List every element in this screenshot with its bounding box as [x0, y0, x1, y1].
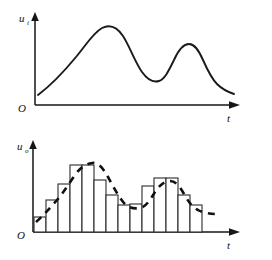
- output-y-axis-sublabel: o: [25, 147, 29, 155]
- input-x-axis-label: t: [227, 112, 231, 124]
- figure-container: u i t O: [0, 0, 272, 260]
- stair-bar: [166, 178, 178, 232]
- stair-bar: [118, 205, 130, 232]
- output-origin-label: O: [17, 229, 25, 241]
- stair-bar: [82, 165, 94, 232]
- input-y-axis-arrow-icon: [31, 12, 39, 21]
- stair-bar: [70, 165, 82, 232]
- stair-bar: [46, 200, 58, 232]
- input-waveform-curve: [38, 26, 234, 95]
- output-x-axis-label: t: [227, 239, 231, 251]
- input-signal-plot: u i t O: [0, 0, 272, 130]
- output-signal-plot: u o t O: [0, 130, 272, 260]
- stair-bar: [94, 180, 106, 232]
- output-staircase-bars: [34, 165, 202, 232]
- input-y-axis-label: u: [19, 12, 25, 24]
- output-y-axis-label: u: [17, 140, 23, 152]
- output-y-axis-arrow-icon: [29, 140, 37, 149]
- stair-bar: [142, 186, 154, 232]
- input-y-axis-sublabel: i: [27, 19, 29, 27]
- input-x-axis-arrow-icon: [229, 101, 240, 109]
- input-origin-label: O: [18, 102, 26, 114]
- output-x-axis-arrow-icon: [229, 228, 240, 236]
- stair-bar: [106, 195, 118, 232]
